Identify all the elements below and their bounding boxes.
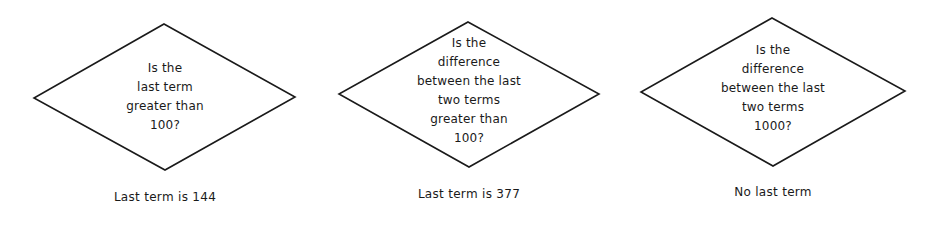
question-line: difference <box>703 60 843 79</box>
question-line: Is the <box>399 34 539 53</box>
question-line: 100? <box>105 116 225 135</box>
question-line: two terms <box>703 98 843 117</box>
question-line: Is the <box>105 59 225 78</box>
question-line: Is the <box>703 41 843 60</box>
question-line: difference <box>399 53 539 72</box>
question-line: two terms <box>399 91 539 110</box>
question-line: between the last <box>703 79 843 98</box>
question-line: greater than <box>105 97 225 116</box>
decision-2-question: Is the difference between the last two t… <box>399 34 539 148</box>
decision-1-question: Is the last term greater than 100? <box>105 59 225 135</box>
decision-1-caption: Last term is 144 <box>95 190 235 204</box>
question-line: greater than <box>399 110 539 129</box>
question-line: between the last <box>399 72 539 91</box>
decision-3-question: Is the difference between the last two t… <box>703 41 843 136</box>
decision-3-caption: No last term <box>703 185 843 199</box>
question-line: 100? <box>399 129 539 148</box>
question-line: last term <box>105 78 225 97</box>
question-line: 1000? <box>703 117 843 136</box>
decision-2-caption: Last term is 377 <box>399 187 539 201</box>
